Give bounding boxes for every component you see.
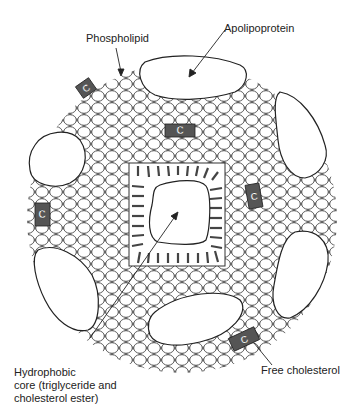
free-cholesterol-label: Free cholesterol [261, 364, 340, 377]
phospholipid-leader [116, 48, 121, 72]
cholesterol-marker: C [165, 124, 195, 137]
hydrophobic-core-label: Hydrophobic core (triglyceride and chole… [14, 366, 117, 405]
svg-text:C: C [176, 125, 183, 136]
apolipoprotein-label: Apolipoprotein [224, 22, 294, 35]
apolipoprotein-patch-left [29, 132, 85, 186]
lipoprotein-diagram: C C C C C [0, 0, 354, 411]
cholesterol-marker: C [35, 203, 50, 226]
svg-text:C: C [38, 209, 45, 220]
phospholipid-label: Phospholipid [86, 32, 149, 45]
apolipoprotein-patch-top [140, 56, 247, 99]
